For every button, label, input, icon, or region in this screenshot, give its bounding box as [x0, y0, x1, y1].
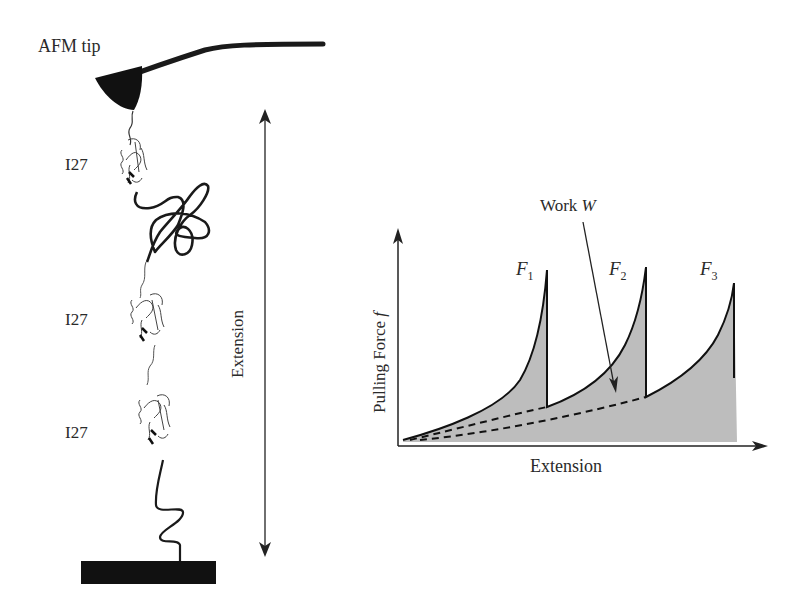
work-arrow: [583, 222, 614, 385]
tether-chain: [156, 460, 183, 561]
y-axis-label: Pulling Force f: [370, 312, 390, 413]
f2-symbol: F: [609, 258, 621, 279]
f1-index: 1: [528, 269, 534, 283]
cantilever: [118, 44, 323, 80]
work-annotation: Work W: [540, 196, 596, 216]
y-axis-label-text: Pulling Force: [370, 317, 389, 413]
force-extension-chart: [393, 222, 768, 451]
extension-vertical-label: Extension: [228, 310, 248, 378]
substrate: [81, 561, 216, 584]
f3-index: 3: [712, 269, 718, 283]
y-axis-label-symbol: f: [370, 312, 389, 317]
figure-graphics: [0, 0, 800, 609]
work-text: Work: [540, 196, 582, 215]
peak-label-f2: F2: [609, 258, 627, 284]
extension-arrow: [259, 109, 271, 557]
peak-label-f3: F3: [700, 258, 718, 284]
i27-domain-2: [131, 294, 164, 341]
i27-domain-3: [139, 395, 170, 444]
work-area: [403, 267, 737, 442]
i27-label-3: I27: [65, 423, 88, 443]
i27-label-1: I27: [65, 155, 88, 175]
f3-symbol: F: [700, 258, 712, 279]
afm-tip-label: AFM tip: [38, 36, 101, 57]
f1-symbol: F: [516, 258, 528, 279]
afm-tip-icon: [95, 66, 142, 110]
x-axis-label: Extension: [530, 456, 602, 477]
peak-label-f1: F1: [516, 258, 534, 284]
work-symbol: W: [582, 196, 596, 215]
i27-label-2: I27: [65, 310, 88, 330]
i27-domain-1: [121, 139, 147, 184]
f2-index: 2: [621, 269, 627, 283]
unfolded-chain: [135, 184, 209, 262]
